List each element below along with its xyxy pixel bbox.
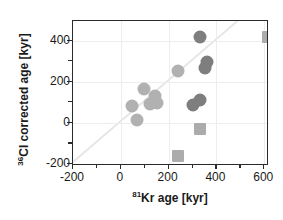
x-axis-tick — [72, 165, 73, 169]
gridline-horizontal — [73, 82, 267, 83]
x-axis-tick — [263, 165, 264, 169]
data-point-circle — [194, 30, 207, 43]
data-point-square — [194, 123, 206, 135]
x-axis-minor-tick — [192, 165, 193, 168]
x-axis-minor-tick — [96, 165, 97, 168]
x-axis-title: 81Kr age [kyr] — [72, 190, 268, 205]
plot-area — [73, 21, 267, 164]
data-point-circle — [151, 96, 164, 109]
gridline-horizontal — [73, 41, 267, 42]
y-axis-title: 36Cl corrected age [kyr] — [16, 20, 31, 180]
x-axis-title-text: Kr age [kyr] — [141, 191, 208, 205]
y-axis-tick-label: -200 — [46, 156, 70, 170]
x-axis-tick — [215, 165, 216, 169]
y-axis-tick-label: 400 — [50, 33, 70, 47]
y-axis-minor-tick — [68, 101, 72, 102]
y-axis-title-text: Cl corrected age [kyr] — [17, 33, 31, 156]
data-point-circle — [193, 93, 206, 106]
x-axis-tick-label: 400 — [205, 170, 225, 184]
gridline-vertical — [169, 21, 170, 164]
y-axis-minor-tick — [68, 60, 72, 61]
gridline-vertical — [216, 21, 217, 164]
x-axis-tick — [168, 165, 169, 169]
chart-figure: -2000200400600-2000200400 81Kr age [kyr]… — [0, 0, 283, 220]
x-axis-tick-label: 0 — [116, 170, 123, 184]
y-axis-minor-tick — [68, 142, 72, 143]
data-point-circle — [126, 100, 139, 113]
data-point-circle — [198, 62, 211, 75]
x-axis-title-superscript: 81 — [132, 190, 141, 199]
x-axis-tick — [120, 165, 121, 169]
data-point-square — [262, 31, 267, 43]
data-point-circle — [131, 114, 144, 127]
y-axis-tick-label: 200 — [50, 74, 70, 88]
plot-frame — [72, 20, 268, 165]
y-axis-title-superscript: 36 — [16, 157, 25, 166]
data-point-circle — [172, 65, 185, 78]
x-axis-tick-label: 600 — [253, 170, 273, 184]
gridline-vertical — [121, 21, 122, 164]
y-axis-tick-label: 0 — [63, 115, 70, 129]
gridline-horizontal — [73, 123, 267, 124]
identity-reference-line — [73, 21, 267, 164]
x-axis-minor-tick — [144, 165, 145, 168]
x-axis-minor-tick — [239, 165, 240, 168]
x-axis-tick-label: -200 — [60, 170, 84, 184]
x-axis-tick-label: 200 — [158, 170, 178, 184]
data-point-square — [172, 150, 184, 162]
